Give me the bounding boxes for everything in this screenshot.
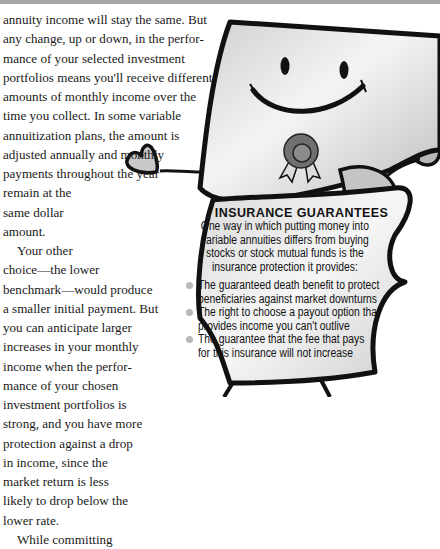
text-line: lower rate. [3, 511, 233, 530]
left-eye-icon [281, 57, 290, 75]
text-line: remain at the [3, 183, 233, 202]
bullet-line: beneficiaries against market downturns [198, 293, 379, 307]
text-line: mance of your chosen [3, 376, 233, 395]
text-line: portfolios means you'll receive differen… [3, 68, 233, 87]
text-line: payments throughout the year [3, 164, 233, 183]
text-line: annuity income will stay the same. But [3, 10, 233, 29]
bullet-line: provides income you can't outlive [198, 320, 380, 334]
right-eye-icon [340, 61, 349, 79]
intro-line: One way in which putting money into [186, 220, 384, 234]
text-line: protection against a drop [3, 434, 233, 453]
text-line: mance of your selected investment [3, 49, 233, 68]
insurance-guarantees-box: INSURANCE GUARANTEES One way in which pu… [198, 206, 413, 360]
text-line: investment portfolios is [3, 395, 233, 414]
intro-line: stocks or stock mutual funds is the [186, 247, 384, 261]
bullet-line: The right to choose a payout option that [198, 306, 380, 320]
right-leg [321, 380, 330, 397]
box-title: INSURANCE GUARANTEES [190, 206, 413, 220]
paper-body [200, 22, 440, 202]
intro-line: variable annuities differs from buying [186, 234, 384, 248]
list-item: The right to choose a payout option that… [186, 306, 413, 333]
text-line: While committing [3, 530, 233, 549]
text-line: strong, and you have more [3, 414, 233, 433]
text-line: likely to drop below the [3, 491, 233, 510]
text-line: in income, since the [3, 453, 233, 472]
bullet-line: The guaranteed death benefit to protect [198, 279, 379, 293]
text-line: any change, up or down, in the perfor- [3, 29, 233, 48]
list-item: The guarantee that the fee that pays for… [186, 333, 413, 360]
text-line: annuitization plans, the amount is [3, 126, 233, 145]
guarantee-list: The guaranteed death benefit to protect … [198, 279, 413, 360]
text-line: adjusted annually and monthly [3, 145, 233, 164]
box-intro: One way in which putting money into vari… [186, 220, 381, 274]
text-line: market return is less [3, 472, 233, 491]
bullet-line: The guarantee that the fee that pays [198, 333, 364, 347]
list-item: The guaranteed death benefit to protect … [186, 279, 413, 306]
text-line: amounts of monthly income over the [3, 87, 233, 106]
bullet-icon [186, 336, 193, 343]
bullet-icon [186, 309, 193, 316]
bullet-icon [186, 282, 193, 289]
text-line: time you collect. In some variable [3, 106, 233, 125]
intro-line: insurance protection it provides: [186, 261, 384, 275]
bullet-line: for this insurance will not increase [198, 347, 364, 361]
